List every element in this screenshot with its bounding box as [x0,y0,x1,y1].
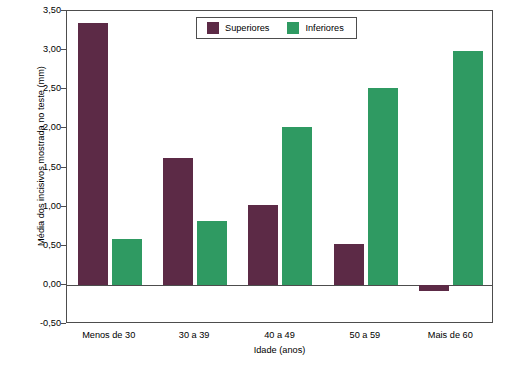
legend: SuperioresInferiores [196,17,357,39]
legend-entry: Inferiores [287,22,343,34]
bar [112,239,142,284]
bar [368,88,398,284]
bar-group [409,11,494,322]
bar [248,205,278,285]
plot-area [66,10,493,323]
y-tick-label: 0,00 [31,279,61,289]
bar-group [152,11,237,322]
y-tick-label: 1,50 [31,162,61,172]
x-tick-label: Mais de 60 [428,330,473,340]
y-tick-label: -0,50 [31,318,61,328]
x-tick-label: 30 a 39 [179,330,210,340]
y-tick-label: 3,50 [31,5,61,15]
x-tick-label: 50 a 59 [350,330,381,340]
x-tick-label: 40 a 49 [264,330,295,340]
y-tick-label: 2,50 [31,83,61,93]
bar [163,158,193,285]
y-tick-label: 1,00 [31,201,61,211]
bar [453,51,483,285]
x-tick-label: Menos de 30 [82,330,135,340]
bar-group [323,11,408,322]
y-tick-label: 0,50 [31,240,61,250]
y-tick-mark [61,323,66,324]
y-tick-label: 2,00 [31,122,61,132]
bar-group [67,11,152,322]
legend-entry: Superiores [207,22,269,34]
legend-swatch [287,22,299,34]
bar [419,285,449,291]
legend-label: Superiores [225,23,269,33]
legend-label: Inferiores [305,23,343,33]
bar [78,23,108,285]
bar [197,221,227,285]
bar-group [238,11,323,322]
bar [334,244,364,285]
legend-swatch [207,22,219,34]
y-tick-label: 3,00 [31,44,61,54]
x-axis-title: Idade (anos) [66,345,493,355]
bar-chart: Média dos incisivos mostrada no teste (m… [0,0,507,368]
bar [282,127,312,285]
